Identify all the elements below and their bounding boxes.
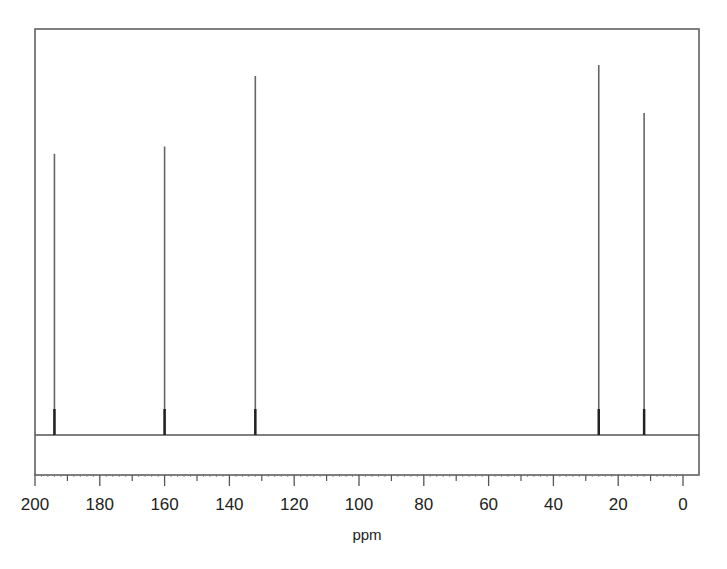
tick-label: 120: [280, 495, 308, 514]
tick-label: 100: [345, 495, 373, 514]
x-axis-title: ppm: [352, 526, 381, 543]
tick-label: 80: [414, 495, 433, 514]
tick-label: 60: [479, 495, 498, 514]
tick-label: 0: [678, 495, 687, 514]
tick-label: 140: [215, 495, 243, 514]
spectrum-peaks: [54, 65, 644, 435]
tick-label: 20: [609, 495, 628, 514]
x-axis-ticks: [35, 475, 683, 486]
tick-label: 40: [544, 495, 563, 514]
x-axis-tick-labels: 200180160140120100806040200: [21, 495, 688, 514]
tick-label: 180: [86, 495, 114, 514]
tick-label: 160: [150, 495, 178, 514]
tick-label: 200: [21, 495, 49, 514]
nmr-spectrum-chart: 200180160140120100806040200 ppm: [0, 0, 727, 569]
